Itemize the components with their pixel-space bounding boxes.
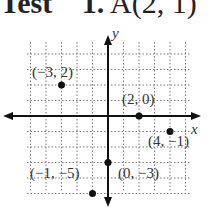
y-axis	[104, 35, 112, 207]
point-label: (4, −1)	[148, 133, 189, 150]
y-axis-label: y	[110, 25, 119, 41]
x-axis	[3, 112, 201, 120]
data-point	[105, 159, 112, 166]
point-label: (−3, 2)	[32, 64, 73, 81]
point-label: (2, 0)	[122, 91, 155, 108]
coordinate-plane: x y (−3, 2)(2, 0)(4, −1)(0, −3)(−1, −5)	[0, 0, 212, 212]
data-point	[58, 82, 65, 89]
points: (−3, 2)(2, 0)(4, −1)(0, −3)(−1, −5)	[30, 64, 189, 197]
point-label: (0, −3)	[118, 165, 159, 182]
x-axis-label: x	[190, 121, 198, 137]
data-point	[136, 113, 143, 120]
point-label: (−1, −5)	[30, 165, 79, 182]
data-point	[89, 190, 96, 197]
